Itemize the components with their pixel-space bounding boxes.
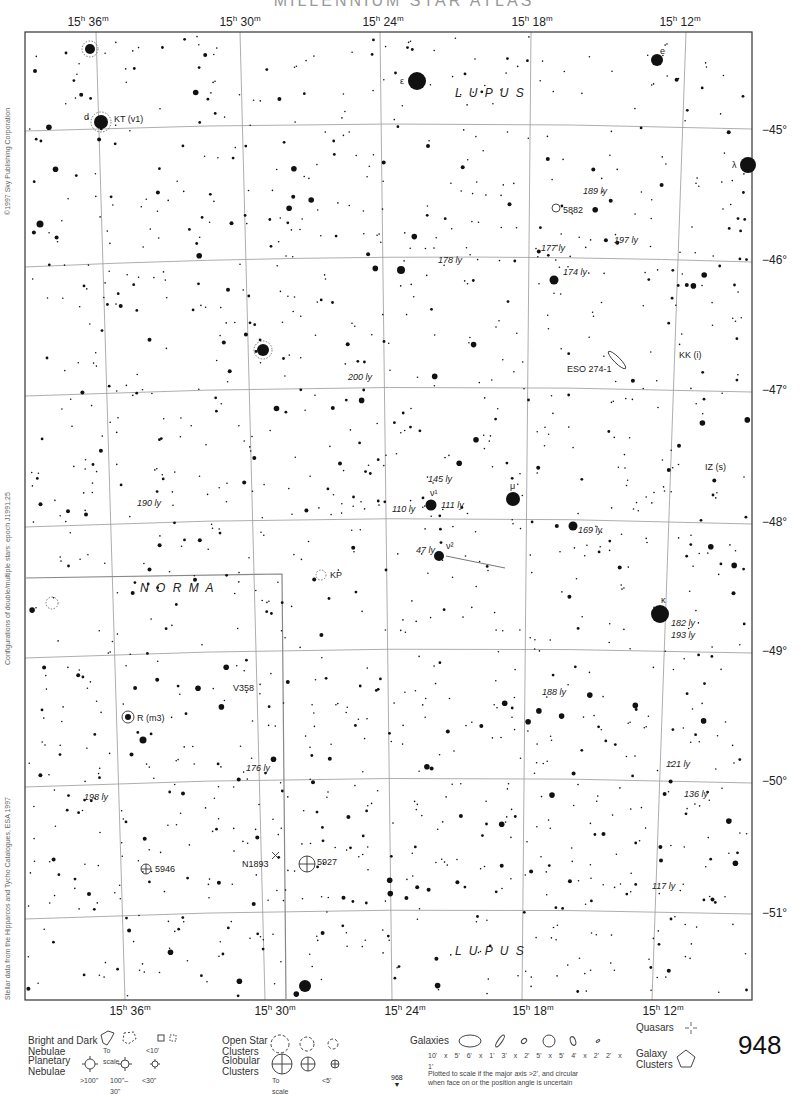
constellation-name: L U P U S xyxy=(455,86,526,100)
star-label: 5927 xyxy=(317,857,337,867)
star-label: 5882 xyxy=(563,205,583,215)
star-label: 182 ly xyxy=(671,618,696,628)
star-label: 5946 xyxy=(155,864,175,874)
deep-sky-objects xyxy=(122,204,628,874)
globular-icons xyxy=(270,1053,360,1077)
star-label: 178 ly xyxy=(438,255,463,265)
quasar-icon xyxy=(684,1021,698,1035)
constellation-name: L U P U S xyxy=(455,944,526,958)
epoch-note: Configurations of double/multiple stars:… xyxy=(4,492,11,665)
legend-globular: Globular Clusters To scale <5' xyxy=(222,1055,260,1077)
map-frame xyxy=(25,32,752,1000)
legend-planetary: Planetary Nebulae >100" 100"–30" <30" xyxy=(28,1055,70,1077)
star-label: 169 ly xyxy=(578,525,603,535)
galaxy-icons xyxy=(458,1031,608,1051)
next-page-link[interactable]: 968 ▼ xyxy=(391,1074,403,1088)
arrow-down-icon: ▼ xyxy=(391,1081,403,1088)
constellation-name: N O R M A xyxy=(140,581,216,595)
star-chart: εedKT (v1)λ189 ly5882197 ly177 ly178 ly1… xyxy=(0,0,808,1030)
star-label: N1893 xyxy=(242,859,269,869)
star-label: 117 ly xyxy=(652,881,676,891)
star-label: KK (i) xyxy=(679,350,702,360)
star-label: e xyxy=(660,46,665,56)
pentagon-icon xyxy=(676,1049,696,1069)
coordinate-grid xyxy=(25,32,752,1000)
star-label: 177 ly xyxy=(541,243,566,253)
legend-open-clusters: Open Star Clusters xyxy=(222,1035,268,1057)
legend-quasars: Quasars xyxy=(636,1022,674,1033)
star-label: KT (v1) xyxy=(114,114,143,124)
constellation-boundary xyxy=(25,574,286,1000)
star-label: IZ (s) xyxy=(705,462,726,472)
planetary-icons xyxy=(80,1055,180,1075)
star-label: ν¹ xyxy=(430,488,438,498)
nebula-icons xyxy=(98,1029,188,1047)
star-label: 189 ly xyxy=(583,186,608,196)
star-label: 197 ly xyxy=(614,235,639,245)
star-label: 176 ly xyxy=(246,763,271,773)
star-label: λ xyxy=(732,160,737,170)
star-label: 198 ly xyxy=(84,792,109,802)
star-label: 47 ly xyxy=(416,545,436,555)
star-label: ε xyxy=(400,76,404,86)
star-label: 121 ly xyxy=(666,759,691,769)
star-label: κ xyxy=(661,595,666,605)
star-label: μ xyxy=(510,481,515,491)
star-label: d xyxy=(84,112,89,122)
star-label: 111 ly xyxy=(441,500,464,510)
star-label: 188 ly xyxy=(542,687,567,697)
star-label: R (m3) xyxy=(137,713,165,723)
star-label: 174 ly xyxy=(563,267,588,277)
bright-stars xyxy=(37,44,757,992)
star-label: 110 ly xyxy=(392,504,416,514)
data-source-note: Stellar data from the Hipparcos and Tych… xyxy=(4,797,11,1000)
page-number: 948 xyxy=(738,1030,781,1061)
star-label: 145 ly xyxy=(428,474,453,484)
star-labels: εedKT (v1)λ189 ly5882197 ly177 ly178 ly1… xyxy=(84,46,737,891)
legend-galaxy-clusters: Galaxy Clusters xyxy=(636,1048,673,1070)
star-label: 193 ly xyxy=(671,630,696,640)
star-label: KP xyxy=(330,570,342,580)
star-field xyxy=(26,36,750,997)
legend-galaxies: Galaxies 10' x 5' 6' x 1' 3' x 2' 5' x 5… xyxy=(410,1035,449,1046)
star-label: 136 ly xyxy=(684,789,709,799)
legend-nebulae: Bright and Dark Nebulae To scale <10' xyxy=(28,1035,97,1057)
star-label: 190 ly xyxy=(137,498,162,508)
star-label: V358 xyxy=(233,683,254,693)
star-label: ν² xyxy=(446,541,454,551)
star-label: 200 ly xyxy=(347,372,373,382)
constellation-names: L U P U SN O R M AL U P U S xyxy=(140,86,526,958)
star-label: ESO 274-1 xyxy=(567,364,612,374)
copyright-text: ©1997 Sky Publishing Corporation xyxy=(4,108,11,215)
